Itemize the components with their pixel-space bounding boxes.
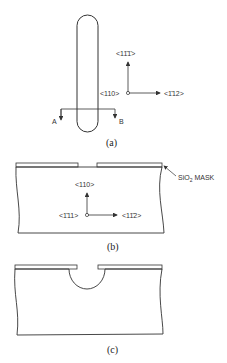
dir-label-right: <1̄12> bbox=[164, 90, 184, 97]
dir-label-origin: <110> bbox=[100, 90, 119, 97]
section-label-a: A bbox=[52, 118, 57, 125]
panel-b: SiO2 MASK <110> <1̄11> <11̄2> (b) bbox=[16, 163, 215, 253]
wafer-outline bbox=[15, 269, 163, 335]
caption-a: (a) bbox=[106, 137, 117, 149]
caption-b: (b) bbox=[107, 241, 119, 253]
mask-label: SiO2 MASK bbox=[178, 174, 215, 183]
dir-label-up: <11̄1̄> bbox=[116, 50, 135, 57]
mask-left bbox=[15, 265, 77, 269]
section-line-ab bbox=[61, 109, 115, 118]
slot-outline bbox=[77, 15, 98, 132]
panel-a: A B <11̄1̄> <110> <1̄12> (a) bbox=[52, 15, 184, 149]
mask-right bbox=[98, 265, 162, 269]
dir-label-up: <110> bbox=[75, 181, 94, 188]
mask-right bbox=[97, 163, 162, 167]
section-label-b: B bbox=[119, 118, 124, 125]
diagram-canvas: A B <11̄1̄> <110> <1̄12> (a) SiO2 MASK <… bbox=[0, 0, 227, 363]
wafer-outline bbox=[16, 167, 164, 233]
mask-pointer-icon bbox=[164, 166, 176, 176]
mask-left bbox=[16, 163, 78, 167]
dir-label-origin: <1̄11> bbox=[59, 212, 78, 219]
caption-c: (c) bbox=[107, 344, 118, 356]
dir-label-right: <11̄2> bbox=[122, 212, 141, 219]
panel-c: (c) bbox=[15, 265, 163, 356]
